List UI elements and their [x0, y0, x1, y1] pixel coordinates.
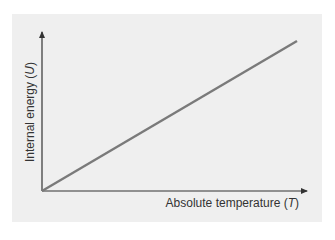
data-line	[42, 41, 297, 191]
x-axis-label: Absolute temperature (T)	[166, 196, 299, 210]
y-axis-label: Internal energy (U)	[23, 62, 37, 162]
